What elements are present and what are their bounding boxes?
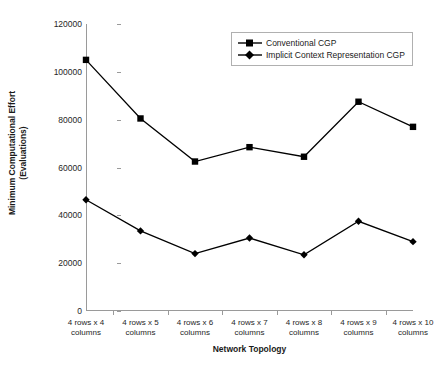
x-tick-mark [168, 311, 169, 315]
y-tick-label: 20000 [58, 258, 82, 268]
y-tick-label: 60000 [58, 163, 82, 173]
x-tick-label: 4 rows x 5columns [114, 318, 168, 338]
x-tick-label: 4 rows x 6columns [168, 318, 222, 338]
y-tick-label: 100000 [54, 67, 82, 77]
chart-container: Minimum Computational Effort (Evaluation… [0, 0, 442, 367]
x-tick-label: 4 rows x 4columns [59, 318, 113, 338]
x-tick-mark [331, 311, 332, 315]
legend-item-implicit-context-cgp: Implicit Context Representation CGP [237, 49, 405, 61]
legend-marker-square-icon [237, 37, 263, 49]
y-tick-label: 0 [77, 306, 82, 316]
legend-item-conventional-cgp: Conventional CGP [237, 37, 405, 49]
x-tick-label: 4 rows x 10columns [386, 318, 440, 338]
y-tick-label: 120000 [54, 19, 82, 29]
y-tick-mark [117, 263, 121, 264]
chart-legend: Conventional CGP Implicit Context Repres… [231, 32, 413, 66]
y-tick-label: 80000 [58, 115, 82, 125]
x-axis-title: Network Topology [86, 344, 413, 354]
x-tick-mark [222, 311, 223, 315]
y-axis-title-line1: Minimum Computational Effort [7, 91, 17, 215]
x-tick-label: 4 rows x 9columns [332, 318, 386, 338]
y-tick-mark [117, 72, 121, 73]
y-axis-title: Minimum Computational Effort (Evaluation… [7, 63, 29, 243]
plot-area [86, 24, 413, 311]
y-tick-label: 40000 [58, 210, 82, 220]
x-tick-label: 4 rows x 7columns [223, 318, 277, 338]
y-tick-mark [117, 215, 121, 216]
x-tick-label: 4 rows x 8columns [277, 318, 331, 338]
y-tick-mark [117, 24, 121, 25]
y-axis-ticks: 020000400006000080000100000120000 [34, 0, 82, 367]
legend-label-conventional-cgp: Conventional CGP [266, 38, 336, 48]
legend-marker-diamond-icon [237, 49, 263, 61]
y-axis-title-line2: (Evaluations) [18, 126, 28, 179]
x-tick-mark [277, 311, 278, 315]
y-tick-mark [117, 311, 121, 312]
x-tick-mark [386, 311, 387, 315]
y-tick-mark [117, 168, 121, 169]
x-tick-mark [113, 311, 114, 315]
y-tick-mark [117, 120, 121, 121]
legend-label-implicit-context-cgp: Implicit Context Representation CGP [266, 50, 405, 60]
